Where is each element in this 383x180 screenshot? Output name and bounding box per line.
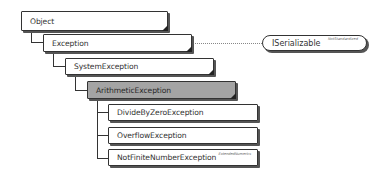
interface-connector [192,43,262,44]
node-notfinitenumberexception[interactable]: NotFiniteNumberException ExtendedNumeric… [108,149,258,166]
corner-mark-icon [230,93,236,99]
corner-mark-icon [162,25,168,31]
interface-tag: NotStandardized [328,37,358,41]
node-systemexception[interactable]: SystemException [65,58,214,75]
corner-mark-icon [208,69,214,75]
corner-mark-icon [186,46,192,52]
connector-arith-notfinite-h [97,158,108,159]
interface-label: ISerializable [272,39,321,48]
node-arithmeticexception[interactable]: ArithmeticException [87,81,236,99]
connector-exception-system-h [53,66,65,67]
node-overflowexception[interactable]: OverflowException [108,127,258,144]
connector-object-exception-h [31,42,43,43]
node-dividebyzeroexception[interactable]: DivideByZeroException [108,104,258,121]
node-label: DivideByZeroException [117,108,204,117]
node-label: ArithmeticException [96,86,171,95]
node-exception[interactable]: Exception [43,34,192,52]
connector-system-arith-v [75,75,76,90]
node-tag: ExtendedNumerics [219,152,251,156]
node-object[interactable]: Object [21,11,168,31]
connector-arith-dividebyzero-h [97,112,108,113]
node-label: Object [30,17,54,26]
connector-arith-children-v [97,99,98,158]
connector-arith-overflow-h [97,135,108,136]
node-label: SystemException [74,62,138,71]
connector-system-arith-h [75,90,87,91]
interface-iserializable[interactable]: ISerializable NotStandardized [262,35,367,51]
connector-exception-system-v [53,52,54,66]
node-label: OverflowException [117,131,187,140]
node-label: NotFiniteNumberException [117,153,216,162]
node-label: Exception [52,39,88,48]
